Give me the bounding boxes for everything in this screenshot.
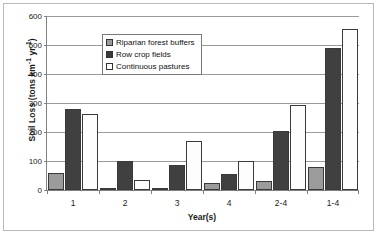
x-tick-label: 1-4 (327, 198, 339, 208)
chart-screenshot: Soil Loss (tons km-1 yr-1) 0100200300400… (0, 0, 378, 244)
y-tick-label: 600 (29, 12, 42, 21)
bar (325, 48, 341, 190)
y-tick-label: 200 (29, 128, 42, 137)
bar (238, 161, 254, 190)
bar (169, 165, 185, 190)
x-axis-title: Year(s) (46, 212, 358, 222)
x-tick-label: 2-4 (275, 198, 287, 208)
bar-group: 1 (47, 16, 99, 190)
legend-label-continuous-pastures: Continuous pastures (116, 62, 189, 71)
bar (290, 105, 306, 190)
x-tick-mark (47, 190, 48, 194)
bar (256, 181, 272, 190)
x-tick-mark (255, 190, 256, 194)
legend-swatch-icon-riparian-forest-buffers (106, 39, 113, 46)
bar (134, 180, 150, 190)
y-tick-label: 500 (29, 41, 42, 50)
legend-item-riparian-forest-buffers: Riparian forest buffers (106, 38, 195, 47)
y-tick-label: 0 (38, 186, 42, 195)
bar (117, 161, 133, 190)
legend-swatch-icon-row-crop-fields (106, 51, 113, 58)
bar-group: 4 (203, 16, 255, 190)
x-tick-mark (203, 190, 204, 194)
bar (221, 174, 237, 190)
x-tick-label: 3 (175, 198, 180, 208)
bar (48, 173, 64, 190)
bar-group: 1-4 (307, 16, 359, 190)
x-tick-mark (358, 190, 359, 194)
bar (273, 131, 289, 190)
bar (204, 183, 220, 190)
legend-item-continuous-pastures: Continuous pastures (106, 62, 195, 71)
y-tick-label: 400 (29, 70, 42, 79)
legend-swatch-icon-continuous-pastures (106, 63, 113, 70)
bar (342, 29, 358, 190)
y-tick-label: 300 (29, 99, 42, 108)
legend-item-row-crop-fields: Row crop fields (106, 50, 195, 59)
y-axis-title: Soil Loss (tons km-1 yr-1) (25, 5, 37, 175)
x-tick-mark (151, 190, 152, 194)
x-tick-label: 4 (227, 198, 232, 208)
x-tick-label: 1 (71, 198, 76, 208)
x-tick-mark (307, 190, 308, 194)
x-tick-mark (99, 190, 100, 194)
bar (186, 141, 202, 190)
bar (152, 188, 168, 190)
legend-label-row-crop-fields: Row crop fields (116, 50, 171, 59)
bar (65, 109, 81, 190)
chart-legend: Riparian forest buffers Row crop fields … (102, 34, 202, 75)
legend-label-riparian-forest-buffers: Riparian forest buffers (116, 38, 195, 47)
bar-group: 2-4 (255, 16, 307, 190)
bar-groups: 12342-41-4 (47, 16, 359, 190)
y-tick-label: 100 (29, 157, 42, 166)
bar (82, 114, 98, 190)
plot-area: 0100200300400500600 12342-41-4 Riparian … (46, 16, 359, 191)
y-axis-title-exp1: -1 (25, 58, 32, 64)
bar (100, 188, 116, 190)
x-tick-label: 2 (123, 198, 128, 208)
bar (308, 167, 324, 190)
